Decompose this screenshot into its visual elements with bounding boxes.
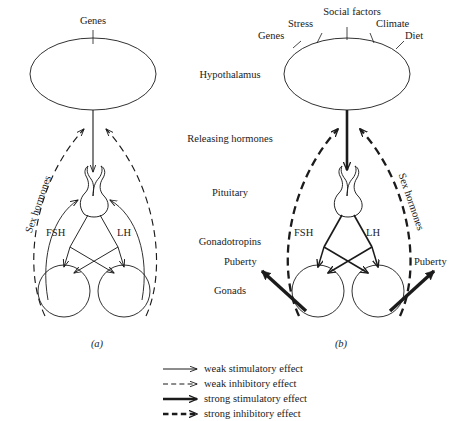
center-label-gonads: Gonads: [214, 286, 246, 297]
puberty-label-right-b: Puberty: [414, 257, 447, 268]
legend-label-strong-stimulatory: strong stimulatory effect: [204, 393, 307, 404]
center-label-releasing-hormones: Releasing hormones: [187, 134, 272, 145]
input-label-genes-b: Genes: [258, 31, 284, 42]
right-gonad-a: [98, 265, 150, 317]
input-label-diet-b: Diet: [405, 31, 423, 42]
panel-tag-a: (a): [91, 339, 103, 350]
lh-to-left-gonad-a: [74, 247, 118, 273]
puberty-label-left-b: Puberty: [224, 257, 257, 268]
left-gonad-b: [292, 265, 344, 317]
climate-tick-b: [370, 33, 374, 43]
input-label-climate-b: Climate: [376, 19, 409, 30]
hormone-label-lh-a: LH: [117, 228, 131, 239]
panel-a-group: [30, 30, 157, 317]
genes-tick-b: [293, 41, 301, 48]
center-label-pituitary: Pituitary: [212, 188, 248, 199]
sex-hormones-feedback-hypothalamus-left-b: [288, 129, 338, 316]
puberty-arrow-left-b: [262, 271, 306, 311]
puberty-arrow-right-b: [390, 271, 434, 311]
fsh-stem-a: [70, 215, 88, 247]
hypothalamus-ellipse-b: [284, 38, 410, 110]
lh-to-right-gonad-a: [118, 247, 124, 267]
hypothalamus-ellipse-a: [30, 38, 156, 110]
legend-label-weak-inhibitory: weak inhibitory effect: [204, 378, 297, 389]
diagram-canvas: [0, 0, 460, 421]
fsh-to-right-gonad-b: [324, 247, 368, 273]
lh-stem-a: [100, 215, 118, 247]
sex-hormones-feedback-hypothalamus-a: [34, 129, 84, 316]
fsh-to-left-gonad-a: [64, 247, 70, 267]
input-label-stress-b: Stress: [288, 19, 313, 30]
legend-group: [163, 369, 197, 414]
hormone-label-fsh-a: FSH: [46, 228, 65, 239]
sex-hormones-feedback-pituitary-right-a: [110, 200, 144, 300]
pituitary-shape-b: [334, 166, 362, 217]
hormone-label-fsh-b: FSH: [294, 228, 313, 239]
lh-to-right-gonad-b: [372, 247, 378, 267]
figure-root: Hypothalamus Releasing hormones Pituitar…: [0, 0, 460, 421]
panel-tag-b: (b): [335, 339, 347, 350]
fsh-to-right-gonad-a: [70, 247, 114, 273]
hormone-label-lh-b: LH: [366, 228, 380, 239]
right-gonad-b: [352, 265, 404, 317]
sex-hormones-feedback-hypothalamus-right-b: [360, 129, 411, 316]
legend-label-strong-inhibitory: strong inhibitory effect: [204, 408, 301, 419]
fsh-to-left-gonad-b: [318, 247, 324, 267]
panel-b-group: [262, 27, 434, 317]
sex-hormones-feedback-pituitary-left-a: [46, 200, 78, 300]
center-label-hypothalamus: Hypothalamus: [199, 70, 260, 81]
diet-tick-b: [396, 41, 404, 49]
lh-to-left-gonad-b: [328, 247, 372, 273]
fsh-stem-b: [324, 215, 342, 247]
input-label-social-factors-b: Social factors: [323, 7, 380, 18]
legend-label-weak-stimulatory: weak stimulatory effect: [204, 363, 303, 374]
center-label-gonadotropins: Gonadotropins: [199, 237, 261, 248]
pituitary-shape-a: [80, 166, 108, 217]
input-label-genes-a: Genes: [80, 16, 106, 27]
